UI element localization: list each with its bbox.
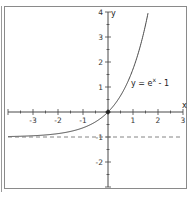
y-tick-label: 4: [98, 8, 103, 17]
x-axis-label: x: [182, 101, 187, 110]
x-tick-label: -1: [79, 116, 87, 125]
x-tick-label: 2: [156, 116, 161, 125]
function-label-tail: - 1: [156, 79, 169, 88]
x-tick-label: 1: [131, 116, 136, 125]
x-tick-label: -3: [29, 116, 37, 125]
y-axis-label: y: [111, 9, 116, 18]
function-label-base: y = e: [131, 79, 153, 88]
y-tick-label: 2: [98, 58, 103, 67]
y-tick-label: 1: [98, 83, 103, 92]
chart-svg: -3-2-1123-2-11234 x y y = ex - 1: [0, 0, 194, 200]
function-label: y = ex - 1: [131, 76, 169, 88]
origin-point: [106, 110, 110, 114]
y-tick-label: -2: [96, 158, 104, 167]
x-tick-label: 3: [181, 116, 186, 125]
y-tick-label: 3: [98, 33, 103, 42]
x-tick-label: -2: [54, 116, 62, 125]
